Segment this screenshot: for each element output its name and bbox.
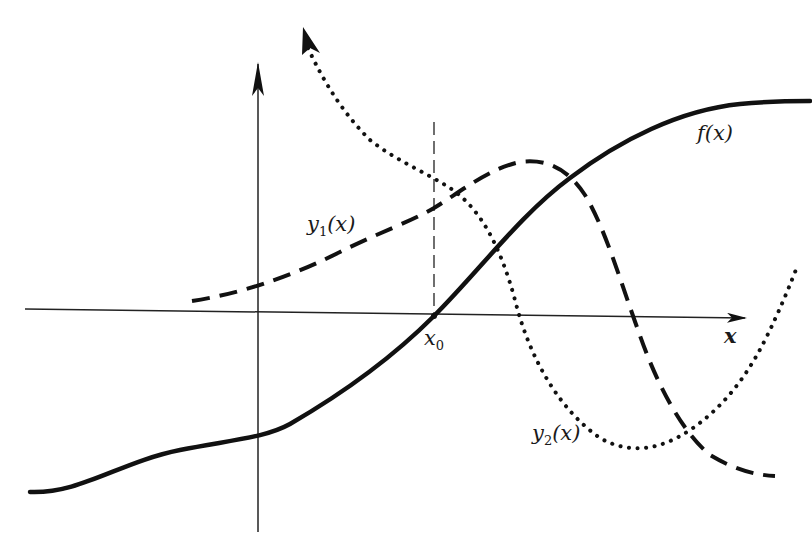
label-f: f(x) (697, 121, 733, 145)
label-y1: y1(x) (307, 212, 355, 239)
y-axis (252, 62, 264, 532)
y2-arrowhead-icon (302, 27, 320, 55)
curve-f (30, 101, 810, 492)
x-axis (25, 309, 745, 318)
label-y2: y2(x) (532, 421, 580, 448)
diagram-canvas (0, 0, 812, 543)
label-x0: x0 (424, 326, 444, 353)
label-x-axis: x (724, 323, 737, 348)
